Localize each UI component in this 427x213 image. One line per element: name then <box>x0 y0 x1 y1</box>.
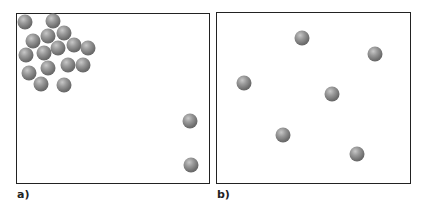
particle-ball <box>237 76 252 91</box>
particle-ball <box>276 128 291 143</box>
particle-ball <box>34 77 49 92</box>
particle-ball <box>183 114 198 129</box>
panel-b <box>216 12 411 184</box>
panel-a-label: a) <box>17 188 29 201</box>
particle-ball <box>19 48 34 63</box>
particle-ball <box>184 158 199 173</box>
particle-ball <box>61 58 76 73</box>
particle-ball <box>67 38 82 53</box>
particle-ball <box>37 46 52 61</box>
particle-ball <box>350 147 365 162</box>
particle-ball <box>76 58 91 73</box>
panel-b-label: b) <box>217 188 230 201</box>
particle-ball <box>295 31 310 46</box>
particle-ball <box>57 78 72 93</box>
particle-ball <box>18 15 33 30</box>
particle-ball <box>41 61 56 76</box>
particle-ball <box>81 41 96 56</box>
particle-ball <box>368 47 383 62</box>
particle-ball <box>325 87 340 102</box>
particle-ball <box>51 41 66 56</box>
